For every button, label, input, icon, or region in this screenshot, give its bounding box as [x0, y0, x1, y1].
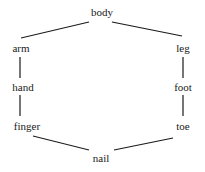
edge-finger-nail	[33, 136, 89, 150]
node-foot: foot	[174, 82, 192, 93]
edge-toe-nail	[114, 138, 173, 150]
node-toe: toe	[176, 121, 189, 132]
node-hand: hand	[12, 82, 33, 93]
node-leg: leg	[176, 43, 189, 54]
edge-body-leg	[112, 22, 182, 36]
node-body: body	[91, 7, 113, 18]
edge-body-arm	[21, 22, 89, 38]
node-arm: arm	[12, 43, 29, 54]
node-finger: finger	[14, 121, 40, 132]
node-nail: nail	[93, 153, 110, 164]
